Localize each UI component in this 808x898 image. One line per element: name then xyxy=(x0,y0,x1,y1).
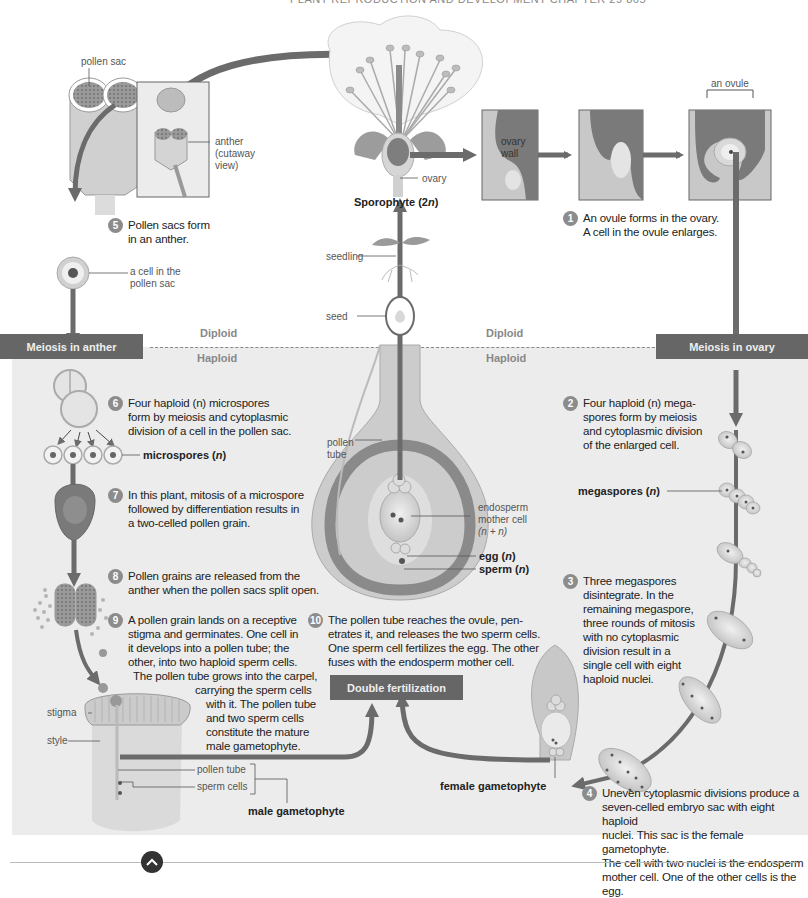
label-sporophyte: Sporophyte (2n) xyxy=(354,196,438,208)
step-4: 4 Uneven cytoplasmic divisions produce a… xyxy=(582,786,808,898)
label-pollen-tube-center: pollen tube xyxy=(327,437,354,461)
label-pollen-tube: pollen tube xyxy=(197,764,246,776)
step-5: 5 Pollen sacs formin an anther. xyxy=(108,218,210,246)
step-10: 10 The pollen tube reaches the ovule, pe… xyxy=(308,613,540,669)
label-endosperm-mother-cell: endosperm mother cell (n + n) xyxy=(478,502,528,538)
double-fertilization-box: Double fertilization xyxy=(330,675,463,700)
label-cell-in-pollen-sac: a cell in the pollen sac xyxy=(130,266,181,290)
step-badge: 1 xyxy=(563,211,578,226)
label-egg: egg (n) xyxy=(479,550,516,562)
diploid-label-left: Diploid xyxy=(200,327,237,339)
label-microspores: microspores (n) xyxy=(143,449,226,461)
label-seedling: seedling xyxy=(326,251,363,263)
chevron-up-icon xyxy=(146,858,158,866)
footer-divider xyxy=(10,862,798,863)
label-sperm: sperm (n) xyxy=(479,563,529,575)
step-9-continued-1: The pollen tube grows into the carpel, xyxy=(133,669,317,683)
step-7: 7 In this plant, mitosis of a microspore… xyxy=(108,488,304,530)
label-female-gametophyte: female gametophyte xyxy=(440,780,546,792)
label-ovary-wall: ovary wall xyxy=(501,136,525,160)
label-seed: seed xyxy=(326,311,348,323)
step-9-continued-2: carrying the sperm cells xyxy=(195,683,312,697)
step-9-continued-3: with it. The pollen tubeand two sperm ce… xyxy=(206,697,316,753)
label-megaspores: megaspores (n) xyxy=(578,485,660,497)
step-9: 9 A pollen grain lands on a receptivesti… xyxy=(108,613,298,669)
label-ovary: ovary xyxy=(422,173,446,185)
step-text: An ovule forms in the ovary.A cell in th… xyxy=(583,211,719,239)
label-an-ovule: an ovule xyxy=(711,78,749,90)
scroll-up-button[interactable] xyxy=(141,851,163,873)
meiosis-in-anther-box: Meiosis in anther xyxy=(0,334,143,359)
diploid-label-right: Diploid xyxy=(486,327,523,339)
pollen-release-illustration xyxy=(33,584,108,636)
haploid-label-left: Haploid xyxy=(197,352,237,364)
label-male-gametophyte: male gametophyte xyxy=(248,805,345,817)
step-8: 8 Pollen grains are released from theant… xyxy=(108,569,319,597)
step-1: 1 An ovule forms in the ovary.A cell in … xyxy=(563,211,719,239)
flower-illustration xyxy=(328,16,483,197)
step-6: 6 Four haploid (n) microsporesform by me… xyxy=(108,396,291,438)
stigma-style-illustration xyxy=(85,694,190,832)
anther-illustration xyxy=(69,68,143,215)
label-stigma: stigma xyxy=(47,707,76,719)
label-anther: anther (cutaway view) xyxy=(215,136,255,172)
step-3: 3 Three megasporesdisintegrate. In there… xyxy=(563,574,695,686)
label-pollen-sac: pollen sac xyxy=(81,56,126,68)
label-style: style xyxy=(47,735,68,747)
meiosis-in-ovary-box: Meiosis in ovary xyxy=(656,334,808,359)
ovary-panel-3 xyxy=(689,90,771,200)
step-2: 2 Four haploid (n) mega-spores form by m… xyxy=(563,396,702,452)
ovary-panel-2 xyxy=(579,110,643,200)
haploid-label-right: Haploid xyxy=(486,352,526,364)
label-sperm-cells: sperm cells xyxy=(197,781,248,793)
